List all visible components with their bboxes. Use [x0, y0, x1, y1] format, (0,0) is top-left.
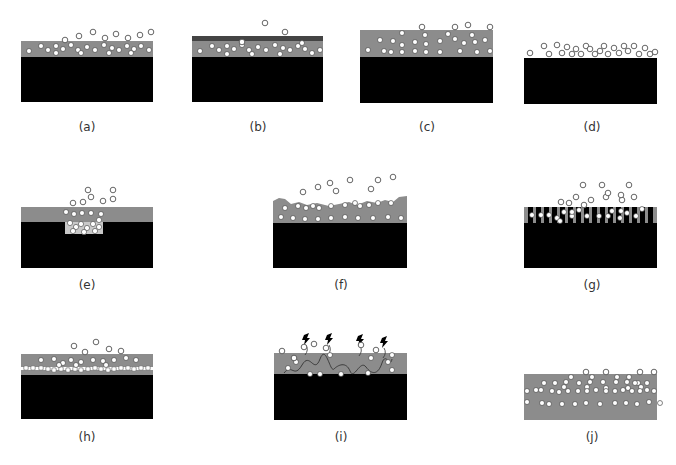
panel-label-f: (f): [321, 278, 361, 292]
panel-c: [360, 30, 493, 103]
substrate-layer: [360, 57, 493, 103]
panel-i-drawing: [274, 353, 407, 420]
panel-label-d: (d): [572, 120, 612, 134]
panel-e: [21, 207, 153, 268]
panel-label-b: (b): [238, 120, 278, 134]
substrate-layer: [524, 223, 657, 268]
panel-b-drawing: [192, 36, 323, 102]
panel-g: [524, 207, 657, 268]
panel-label-c: (c): [407, 120, 447, 134]
panel-h: [21, 354, 153, 419]
substrate-layer: [21, 375, 153, 419]
panel-i: [274, 353, 407, 420]
lightning-trigger-icon: [380, 336, 388, 348]
panel-label-h: (h): [67, 430, 107, 444]
panel-e-drawing: [21, 207, 153, 268]
substrate-layer: [21, 57, 153, 102]
substrate-layer: [274, 374, 407, 420]
panel-f-drawing: [273, 195, 407, 268]
panel-label-a: (a): [67, 120, 107, 134]
substrate-layer: [192, 57, 323, 102]
panel-label-g: (g): [572, 278, 612, 292]
panel-c-drawing: [360, 30, 493, 103]
panel-label-j: (j): [572, 430, 612, 444]
panel-j: [524, 374, 657, 420]
coating-with-interlayer: [21, 354, 153, 375]
panel-d-drawing: [524, 58, 657, 104]
panel-h-drawing: [21, 354, 153, 419]
lightning-trigger-icon: [302, 333, 310, 345]
lightning-trigger-icon: [325, 333, 333, 345]
panel-a-drawing: [21, 41, 153, 102]
panel-d: [524, 58, 657, 104]
panel-b: [192, 36, 323, 102]
coating-layer: [21, 207, 153, 222]
top-barrier-layer: [192, 36, 323, 41]
panel-f: [273, 195, 407, 268]
panel-a: [21, 41, 153, 102]
panel-g-drawing: [524, 207, 657, 268]
panel-label-i: (i): [321, 430, 361, 444]
panel-label-e: (e): [67, 278, 107, 292]
substrate-layer: [273, 223, 407, 268]
substrate-layer: [524, 58, 657, 104]
panel-j-drawing: [524, 374, 657, 420]
